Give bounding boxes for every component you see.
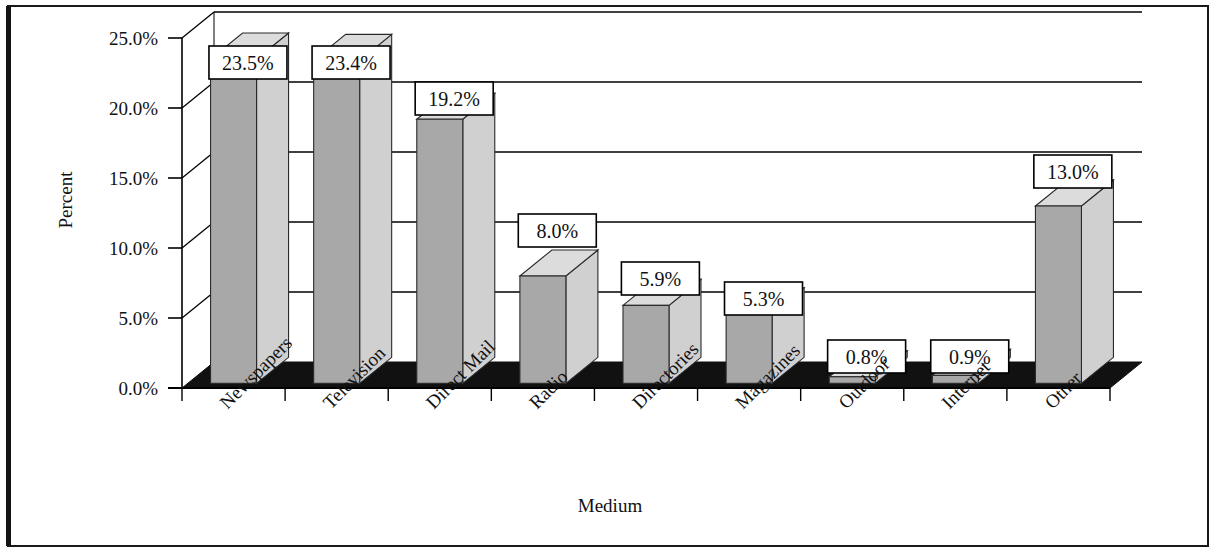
- data-label-text: 5.3%: [743, 288, 785, 310]
- y-tick-label: 15.0%: [109, 168, 158, 189]
- y-tick-label: 10.0%: [109, 238, 158, 259]
- data-label-text: 23.4%: [325, 52, 377, 74]
- data-label-text: 8.0%: [536, 220, 578, 242]
- y-tick-label: 5.0%: [118, 308, 158, 329]
- bar-column: [520, 250, 598, 383]
- bar-column: [1035, 180, 1113, 383]
- bar-side-face: [1081, 180, 1113, 383]
- bar-side-face: [360, 34, 392, 383]
- bar-front-face: [211, 59, 257, 383]
- bar-column: [211, 33, 289, 383]
- x-axis-title: Medium: [578, 495, 643, 516]
- chart-figure: 0.0%5.0%10.0%15.0%20.0%25.0%23.5%23.4%19…: [0, 0, 1214, 553]
- y-axis-title: Percent: [55, 171, 76, 229]
- figure-border-left-thick: [6, 6, 11, 546]
- figure-border: [8, 6, 1208, 546]
- data-label-text: 23.5%: [222, 52, 274, 74]
- bar-front-face: [520, 276, 566, 383]
- y-tick-label: 25.0%: [109, 28, 158, 49]
- data-label-text: 19.2%: [428, 88, 480, 110]
- bar-front-face: [1035, 206, 1081, 383]
- y-tick-label: 0.0%: [118, 378, 158, 399]
- bar-front-face: [417, 119, 463, 383]
- bar-chart-canvas: 0.0%5.0%10.0%15.0%20.0%25.0%23.5%23.4%19…: [0, 0, 1214, 553]
- data-label-text: 5.9%: [640, 268, 682, 290]
- bar-side-face: [257, 33, 289, 383]
- y-tick-label: 20.0%: [109, 98, 158, 119]
- data-label-text: 13.0%: [1047, 161, 1099, 183]
- bar-front-face: [314, 60, 360, 383]
- bar-column: [314, 34, 392, 383]
